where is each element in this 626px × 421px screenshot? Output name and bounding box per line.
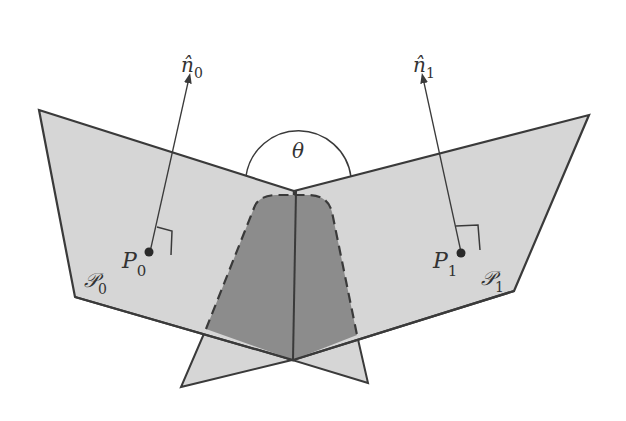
- two-planes-diagram: n̂0 n̂1 θ P0 P1 𝒫0 𝒫1: [0, 0, 626, 421]
- point-p1: [457, 249, 466, 258]
- label-n0: n̂0: [181, 53, 203, 81]
- label-n1: n̂1: [413, 53, 435, 81]
- label-theta: θ: [292, 139, 304, 163]
- point-p0: [145, 248, 154, 257]
